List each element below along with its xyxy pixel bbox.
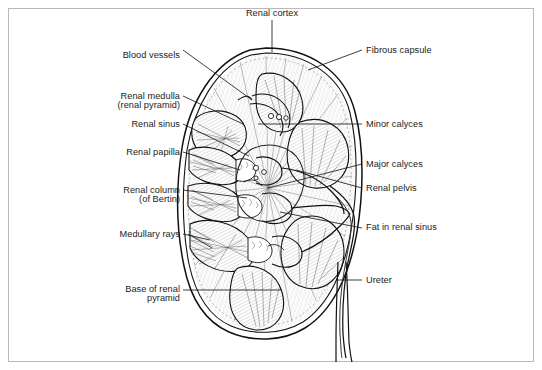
- label-renal-papilla: Renal papilla: [60, 147, 180, 157]
- pyramid-right-lower: [281, 216, 344, 289]
- pyramid-right-upper: [287, 120, 348, 189]
- label-renal-sinus: Renal sinus: [60, 119, 180, 129]
- label-medullary-rays: Medullary rays: [60, 229, 180, 239]
- label-minor-calyces: Minor calyces: [366, 119, 506, 129]
- label-of-bertin: (of Bertin): [60, 194, 180, 204]
- label-major-calyces: Major calyces: [366, 159, 506, 169]
- label-blood-vessels: Blood vessels: [60, 50, 180, 60]
- kidney-body-group: [178, 45, 370, 362]
- kidney-diagram-figure: Renal cortex Blood vessels Renal medulla…: [0, 0, 542, 370]
- label-renal-pyramid: (renal pyramid): [60, 100, 180, 110]
- label-renal-cortex: Renal cortex: [222, 8, 322, 18]
- label-ureter: Ureter: [366, 275, 506, 285]
- label-pyramid: pyramid: [60, 293, 180, 303]
- label-fat-in-renal-sinus: Fat in renal sinus: [366, 222, 506, 232]
- label-renal-pelvis: Renal pelvis: [366, 183, 506, 193]
- label-fibrous-capsule: Fibrous capsule: [366, 45, 506, 55]
